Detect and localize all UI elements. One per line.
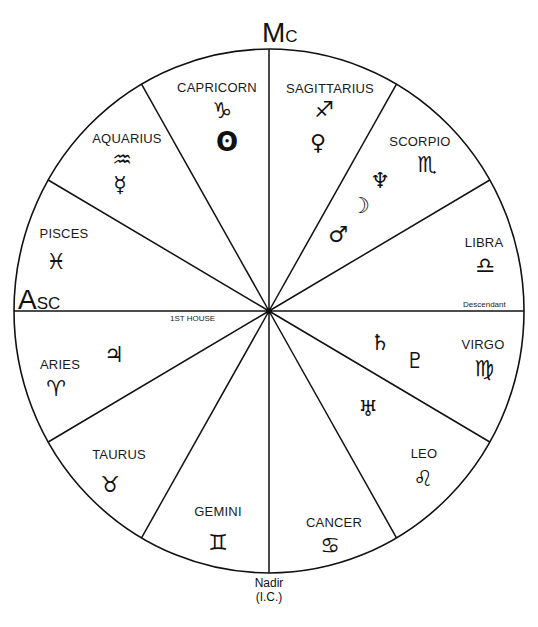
saturn-icon: ♄ xyxy=(370,332,390,354)
sign-libra-label: LIBRA xyxy=(465,235,504,250)
house-divider xyxy=(142,84,270,311)
mc-letter-c: C xyxy=(285,27,297,46)
aquarius-icon: ♒ xyxy=(112,149,132,171)
mc-label: MC xyxy=(262,19,298,47)
nadir-text: Nadir xyxy=(255,576,284,590)
leo-icon: ♌ xyxy=(413,468,433,490)
asc-letter-sc: SC xyxy=(37,294,61,313)
sign-aquarius-label: AQUARIUS xyxy=(92,131,162,146)
ic-text: (I.C.) xyxy=(255,590,284,604)
jupiter-icon: ♃ xyxy=(104,344,124,366)
taurus-icon: ♉ xyxy=(100,474,120,496)
sign-capricorn-label: CAPRICORN xyxy=(177,80,257,95)
first-house-label: 1ST HOUSE xyxy=(170,314,215,323)
scorpio-icon: ♏ xyxy=(417,154,437,176)
pluto-icon: ♇ xyxy=(405,350,425,372)
uranus-icon: ♅ xyxy=(358,398,378,420)
sign-taurus-label: TAURUS xyxy=(92,447,146,462)
gemini-icon: ♊ xyxy=(208,532,228,554)
center-point xyxy=(266,308,272,314)
sign-scorpio-label: SCORPIO xyxy=(389,134,450,149)
mars-icon: ♂ xyxy=(328,224,348,246)
nadir-label: Nadir (I.C.) xyxy=(255,576,284,604)
sign-gemini-label: GEMINI xyxy=(194,504,241,519)
neptune-icon: ♆ xyxy=(370,170,390,192)
sign-cancer-label: CANCER xyxy=(306,515,362,530)
sign-pisces-label: PISCES xyxy=(40,226,89,241)
mc-letter-m: M xyxy=(262,17,285,48)
asc-label: ASC xyxy=(18,286,60,314)
venus-icon: ♀ xyxy=(310,132,326,154)
sign-aries-label: ARIES xyxy=(40,357,80,372)
descendant-label: Descendant xyxy=(463,300,506,309)
sign-leo-label: LEO xyxy=(411,446,438,461)
moon-icon: ☽ xyxy=(350,195,370,217)
house-divider xyxy=(269,180,490,311)
aries-icon: ♈ xyxy=(46,378,66,400)
mercury-icon: ☿ xyxy=(113,174,127,196)
chart-wheel xyxy=(0,0,538,627)
sign-virgo-label: VIRGO xyxy=(462,337,505,352)
libra-icon: ♎ xyxy=(475,255,495,277)
sign-sagittarius-label: SAGITTARIUS xyxy=(286,81,374,96)
house-divider xyxy=(48,311,269,442)
house-divider xyxy=(48,180,269,311)
capricorn-icon: ♑ xyxy=(212,100,232,122)
virgo-icon: ♍ xyxy=(474,358,494,380)
cancer-icon: ♋ xyxy=(320,535,340,557)
pisces-icon: ♓ xyxy=(46,251,66,273)
sagittarius-icon: ♐ xyxy=(314,99,334,121)
asc-letter-a: A xyxy=(18,284,37,315)
sun-icon: ʘ xyxy=(216,129,238,155)
